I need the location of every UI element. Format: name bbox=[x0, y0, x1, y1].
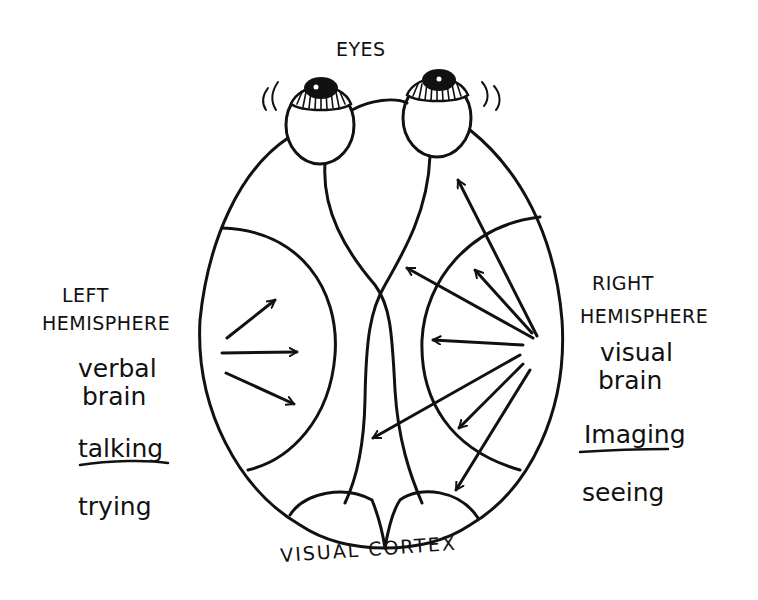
right-heading-line2: HEMISPHERE bbox=[580, 305, 708, 327]
left-heading-line2: HEMISPHERE bbox=[42, 312, 170, 334]
right-keyword: Imaging bbox=[584, 422, 686, 447]
right-heading-line1: RIGHT bbox=[592, 272, 654, 294]
left-heading-line1: LEFT bbox=[62, 284, 109, 306]
left-keyword: talking bbox=[78, 436, 163, 461]
right-desc-line2: brain bbox=[598, 368, 662, 393]
left-eye-icon bbox=[263, 77, 354, 164]
head-top-arc bbox=[352, 100, 407, 110]
left-arrows bbox=[222, 300, 297, 404]
imaging-underline bbox=[580, 449, 668, 452]
right-arrows bbox=[373, 180, 537, 490]
head-outline bbox=[200, 130, 563, 548]
eyes-label: EYES bbox=[336, 38, 386, 60]
left-hemisphere-region bbox=[222, 228, 335, 470]
left-desc-line1: verbal bbox=[78, 356, 157, 381]
left-action: trying bbox=[78, 494, 152, 519]
optic-nerve-left bbox=[325, 164, 422, 503]
right-action: seeing bbox=[582, 480, 664, 505]
left-desc-line2: brain bbox=[82, 384, 146, 409]
right-desc-line1: visual bbox=[600, 340, 673, 365]
optic-nerve-right bbox=[345, 156, 430, 503]
